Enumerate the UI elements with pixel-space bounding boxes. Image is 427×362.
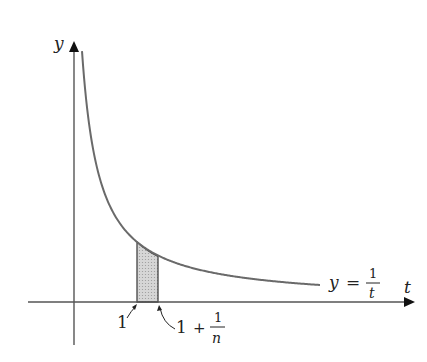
right-bound-label: 1 + 1 n	[157, 305, 225, 346]
left-bound-label: 1	[117, 304, 137, 332]
svg-text:1: 1	[214, 310, 222, 325]
svg-text:1: 1	[176, 317, 187, 337]
shaded-area	[137, 242, 158, 302]
t-axis-arrow-icon	[404, 297, 415, 307]
area-under-curve-diagram: y t y = 1 t 1 1 + 1 n	[0, 0, 427, 362]
svg-text:y: y	[328, 272, 339, 292]
y-axis-arrow-icon	[69, 41, 79, 52]
svg-text:1: 1	[117, 312, 128, 332]
t-axis-label: t	[404, 277, 411, 297]
curve-label: y = 1 t	[328, 266, 380, 301]
svg-text:+: +	[193, 319, 206, 337]
svg-text:=: =	[346, 272, 360, 292]
svg-text:t: t	[369, 285, 375, 301]
svg-text:1: 1	[369, 266, 377, 281]
curve-one-over-t	[82, 51, 320, 285]
y-axis-label: y	[53, 33, 64, 53]
svg-text:n: n	[212, 330, 221, 346]
